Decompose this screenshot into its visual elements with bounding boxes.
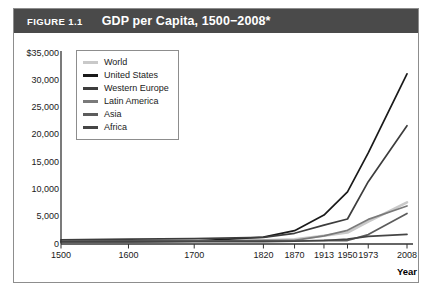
x-axis-title: Year	[397, 266, 417, 277]
y-axis-tick-label: 30,000	[31, 76, 59, 85]
series-line-latin-america	[61, 206, 407, 242]
x-axis-tick-label: 1973	[358, 251, 378, 260]
x-axis-tick-label: 1700	[184, 251, 204, 260]
legend-item-label: United States	[104, 71, 158, 80]
x-axis-tick-label: 1870	[285, 251, 305, 260]
legend-item-label: Africa	[104, 123, 127, 132]
legend-swatch-icon	[83, 61, 98, 64]
y-axis-tick-label: 5,000	[36, 212, 59, 221]
x-axis-tick-label: 1500	[51, 251, 71, 260]
legend-swatch-icon	[83, 126, 98, 129]
y-axis-tick-label: 10,000	[31, 185, 59, 194]
figure-container: FIGURE 1.1 GDP per Capita, 1500−2008* 05…	[0, 0, 433, 295]
legend-item: Asia	[83, 108, 169, 121]
chart-legend: WorldUnited StatesWestern EuropeLatin Am…	[76, 50, 179, 140]
x-axis-tick-label: 1600	[118, 251, 138, 260]
figure-title-bar: FIGURE 1.1 GDP per Capita, 1500−2008*	[14, 9, 418, 33]
legend-swatch-icon	[83, 87, 98, 90]
line-chart-svg	[14, 33, 418, 282]
y-axis-tick-label: 20,000	[31, 130, 59, 139]
y-axis-tick-label: 25,000	[31, 103, 59, 112]
legend-swatch-icon	[83, 113, 98, 116]
legend-item-label: Western Europe	[104, 84, 169, 93]
legend-item-label: Latin America	[104, 97, 159, 106]
y-axis-tick-label: $35,000	[26, 49, 59, 58]
legend-item-label: World	[104, 58, 127, 67]
x-axis-tick-label: 1913	[314, 251, 334, 260]
figure-title: GDP per Capita, 1500−2008*	[102, 14, 271, 28]
legend-item: Western Europe	[83, 82, 169, 95]
legend-item: United States	[83, 69, 169, 82]
legend-swatch-icon	[83, 74, 98, 77]
series-line-world	[61, 202, 407, 240]
y-axis-tick-label: 15,000	[31, 158, 59, 167]
chart-plot-area: 05,00010,00015,00020,00025,00030,000$35,…	[14, 33, 418, 282]
legend-item-label: Asia	[104, 110, 122, 119]
x-axis-tick-label: 1820	[253, 251, 273, 260]
x-axis-tick-label: 1950	[337, 251, 357, 260]
legend-swatch-icon	[83, 100, 98, 103]
legend-item: World	[83, 56, 169, 69]
y-axis-tick-labels: 05,00010,00015,00020,00025,00030,000$35,…	[14, 33, 59, 282]
x-axis-tick-label: 2008	[397, 251, 417, 260]
figure-number-label: FIGURE 1.1	[27, 16, 83, 27]
series-line-western-europe	[61, 126, 407, 240]
legend-item: Latin America	[83, 95, 169, 108]
y-axis-tick-label: 0	[54, 240, 59, 249]
legend-item: Africa	[83, 121, 169, 134]
